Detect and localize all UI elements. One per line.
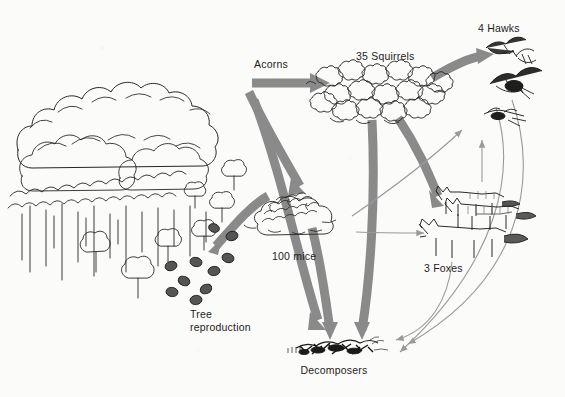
acorn-cluster <box>164 222 239 305</box>
label-squirrels: 35 Squirrels <box>356 50 414 63</box>
flow-mice-to-tree-reproduction <box>216 196 268 246</box>
food-web-diagram: Acorns 35 Squirrels 4 Hawks 100 mice 3 F… <box>0 0 565 397</box>
foxes-illustration <box>419 186 536 258</box>
label-foxes: 3 Foxes <box>424 262 463 275</box>
label-acorns: Acorns <box>254 58 288 71</box>
label-decomposers: Decomposers <box>301 364 368 377</box>
flow-squirrels-to-decomposers <box>362 120 373 330</box>
label-tree-reproduction: Tree reproduction <box>190 308 251 334</box>
label-mice: 100 mice <box>272 250 316 263</box>
thick-flow-arrows <box>216 56 482 330</box>
oak-forest-illustration <box>8 82 246 298</box>
decomposers-illustration <box>288 337 388 355</box>
flow-squirrels-to-hawks <box>432 56 482 78</box>
arrowhead-mice-to-decomposers <box>322 322 338 340</box>
arrowhead-squirrels-to-decomposers <box>354 322 370 340</box>
label-hawks: 4 Hawks <box>478 22 520 35</box>
squirrels-illustration <box>306 60 453 124</box>
hawks-illustration <box>484 37 542 126</box>
flow-mice-to-foxes <box>356 232 424 233</box>
